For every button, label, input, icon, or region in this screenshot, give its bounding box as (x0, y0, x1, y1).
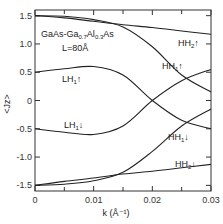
y-tick-label: -0.5 (16, 124, 32, 134)
material-label: GaAs-Ga0.7Al0.3As (41, 29, 114, 40)
x-tick-label: 0.03 (202, 195, 220, 205)
label-lh1-up: LH1↑ (62, 74, 81, 85)
well-width-label: L=80Å (62, 43, 88, 53)
y-tick-label: 1.5 (19, 11, 32, 21)
y-tick-label: -1.0 (16, 152, 32, 162)
y-tick-label: -1.5 (16, 180, 32, 190)
x-axis-label: k (Å⁻¹) (103, 208, 130, 218)
x-tick-label: 0.01 (85, 195, 103, 205)
label-hh2-down: HH2↓ (175, 159, 196, 170)
chart: 00.010.020.031.51.00.50-0.5-1.0-1.5 GaAs… (0, 0, 223, 224)
y-tick-label: 0.5 (19, 67, 32, 77)
y-tick-label: 1.0 (19, 39, 32, 49)
label-hh1-up: HH1↑ (162, 61, 183, 72)
y-tick-label: 0 (27, 96, 32, 106)
x-tick-label: 0 (32, 195, 37, 205)
x-tick-label: 0.02 (144, 195, 162, 205)
label-hh1-down: HH1↓ (168, 132, 189, 143)
y-axis-label: <Jz> (2, 94, 12, 114)
label-lh1-down: LH1↓ (64, 120, 83, 131)
label-hh2-up: HH2↑ (178, 38, 199, 49)
